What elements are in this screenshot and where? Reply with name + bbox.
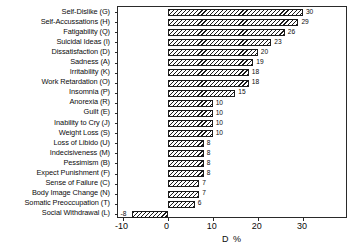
bar-value-label: 8: [207, 160, 211, 167]
y-axis-tick: [115, 174, 119, 175]
x-axis-tick: [123, 217, 124, 221]
bar-value-label: 26: [288, 29, 295, 36]
y-axis-tick: [115, 163, 119, 164]
y-axis-tick: [115, 214, 119, 215]
y-axis-tick: [115, 12, 119, 13]
bar: [168, 160, 204, 167]
bar-value-label: 29: [301, 19, 308, 26]
y-axis-tick: [115, 153, 119, 154]
bar: [168, 191, 200, 198]
bar-value-label: 10: [216, 120, 223, 127]
bar-value-label: 8: [207, 150, 211, 157]
category-label: Irritability (K): [0, 67, 113, 77]
bar: [168, 49, 258, 56]
x-axis-title: D %: [117, 234, 347, 244]
y-axis-tick: [115, 133, 119, 134]
category-label: Self-Dislike (G): [0, 6, 113, 16]
category-label: Body Image Change (N): [0, 188, 113, 198]
category-label: Inability to Cry (J): [0, 117, 113, 127]
bar: [168, 140, 204, 147]
bar-value-label: 10: [216, 130, 223, 137]
category-label: Insomnia (P): [0, 87, 113, 97]
bar: [168, 59, 254, 66]
category-label: Pessimism (B): [0, 157, 113, 167]
y-axis-tick: [115, 63, 119, 64]
bar: [168, 39, 272, 46]
bar-value-label: 23: [274, 39, 281, 46]
bar-value-label: 7: [202, 180, 206, 187]
bar-value-label: 7: [202, 190, 206, 197]
category-label: Work Retardation (O): [0, 77, 113, 87]
bar-value-label: 20: [261, 49, 268, 56]
category-label: Somatic Preoccupation (T): [0, 198, 113, 208]
y-axis-tick: [115, 52, 119, 53]
bar-value-label: 10: [216, 100, 223, 107]
bar: [168, 120, 213, 127]
category-label: Fatigability (Q): [0, 26, 113, 36]
plot-frame: 302926232019181815101010108888776-8: [117, 6, 347, 218]
x-axis-tick: [213, 217, 214, 221]
x-axis-tick-label: 30: [297, 221, 307, 231]
y-axis-tick: [115, 194, 119, 195]
bar-value-label: 8: [207, 140, 211, 147]
category-label: Self-Accussations (H): [0, 16, 113, 26]
x-axis-tick-label: 10: [207, 221, 217, 231]
y-axis-tick: [115, 184, 119, 185]
category-label: Expect Punishment (F): [0, 168, 113, 178]
x-axis-tick: [303, 217, 304, 221]
category-label: Sense of Failure (C): [0, 178, 113, 188]
bar-value-label-negative: -8: [121, 211, 127, 218]
bar: [168, 201, 195, 208]
bar-negative: [132, 211, 168, 218]
y-axis-tick: [115, 22, 119, 23]
bar: [168, 180, 200, 187]
y-axis-tick: [115, 93, 119, 94]
y-axis-tick: [115, 83, 119, 84]
y-axis-tick: [115, 73, 119, 74]
category-label: Social Withdrawal (L): [0, 208, 113, 218]
category-label: Dissatisfaction (D): [0, 46, 113, 56]
x-axis-tick-label: 20: [252, 221, 262, 231]
bar-value-label: 19: [256, 59, 263, 66]
x-axis-tick: [258, 217, 259, 221]
bar: [168, 9, 303, 16]
bar: [168, 150, 204, 157]
bar: [168, 19, 299, 26]
plot-area: 302926232019181815101010108888776-8: [118, 7, 346, 217]
category-label: Anorexia (R): [0, 97, 113, 107]
bar-value-label: 18: [252, 79, 259, 86]
y-axis-tick: [115, 103, 119, 104]
y-axis-tick: [115, 113, 119, 114]
bar: [168, 29, 285, 36]
y-axis-tick: [115, 204, 119, 205]
category-label: Loss of Libido (U): [0, 137, 113, 147]
bar: [168, 69, 249, 76]
bar-value-label: 15: [238, 89, 245, 96]
bar-value-label: 8: [207, 170, 211, 177]
bar: [168, 130, 213, 137]
y-axis-tick: [115, 42, 119, 43]
bar: [168, 80, 249, 87]
category-label: Weight Loss (S): [0, 127, 113, 137]
bar: [168, 170, 204, 177]
bar: [168, 100, 213, 107]
bar-value-label: 10: [216, 110, 223, 117]
x-axis-tick-labels: -100102030: [117, 221, 347, 233]
bar-value-label: 18: [252, 69, 259, 76]
bar: [168, 90, 236, 97]
y-axis-tick: [115, 32, 119, 33]
x-axis-tick-label: -10: [115, 221, 128, 231]
bar-value-label: 6: [198, 200, 202, 207]
category-label: Indecisiveness (M): [0, 147, 113, 157]
x-axis-tick-label: 0: [164, 221, 169, 231]
bar-chart: Self-Dislike (G)Self-Accussations (H)Fat…: [0, 0, 359, 250]
category-label: Guilt (E): [0, 107, 113, 117]
bar-value-label: 30: [306, 9, 313, 16]
y-axis-tick: [115, 123, 119, 124]
category-label: Sadness (A): [0, 56, 113, 66]
category-label: Suicidal Ideas (I): [0, 36, 113, 46]
category-label-column: Self-Dislike (G)Self-Accussations (H)Fat…: [0, 6, 113, 218]
y-axis-tick: [115, 143, 119, 144]
bar: [168, 110, 213, 117]
x-axis-tick: [168, 217, 169, 221]
